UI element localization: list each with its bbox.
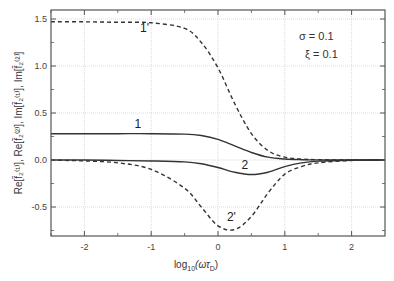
curve-label: 1	[134, 117, 141, 131]
y-tick-label: 0.0	[34, 155, 47, 165]
x-tick-label: 0	[215, 242, 220, 252]
curve-label: 1'	[140, 21, 149, 35]
y-axis-title: Re[f̄₂⁽¹⁾], Re[f̄₂⁽²⁾], Im[f̄₂⁽¹⁾], Im[f…	[12, 51, 24, 194]
x-tick-label: 1	[282, 242, 287, 252]
y-tick-label: 1.0	[34, 61, 47, 71]
y-tick-label: -0.5	[31, 202, 47, 212]
x-axis-title: log10(ωτD)	[174, 259, 218, 272]
x-tick-label: -1	[147, 242, 155, 252]
y-tick-label: 1.5	[34, 14, 47, 24]
annotation-xi: ξ = 0.1	[305, 48, 338, 60]
gridlines	[51, 10, 385, 236]
x-tick-label: 2	[349, 242, 354, 252]
curve-label: 2'	[227, 210, 236, 224]
curve-label: 2	[241, 158, 248, 172]
x-tick-label: -2	[80, 242, 88, 252]
chart: -2-1012-0.50.00.51.01.5 1'122' σ = 0.1 ξ…	[0, 0, 394, 281]
annotation-sigma: σ = 0.1	[299, 30, 334, 42]
y-tick-label: 0.5	[34, 108, 47, 118]
